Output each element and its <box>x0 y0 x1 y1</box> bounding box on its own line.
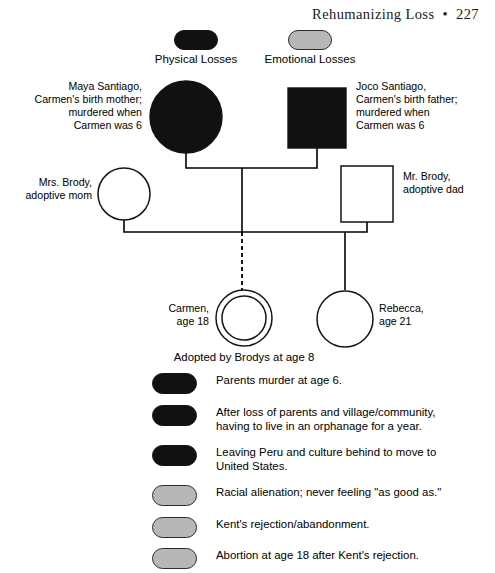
loss-text-2: After loss of parents and village/commun… <box>216 404 435 433</box>
physical-loss-pill-icon <box>174 30 218 50</box>
person-node-joco[interactable] <box>288 88 346 148</box>
page-header: Rehumanizing Loss • 227 <box>312 6 479 23</box>
key-label-physical: Physical Losses <box>141 53 251 65</box>
loss-item-1: Parents murder at age 6. <box>152 372 342 394</box>
loss-pill-icon-6 <box>152 548 197 569</box>
person-label-joco-line-4: Carmen was 6 <box>356 119 424 131</box>
emotional-loss-pill-icon <box>288 30 332 50</box>
link-adoptive-union <box>124 178 367 232</box>
person-label-carmen-line-1: Carmen, <box>168 302 209 314</box>
person-label-maya-line-1: Maya Santiago, <box>68 80 142 92</box>
person-label-carmen-line-2: age 18 <box>177 315 210 327</box>
person-node-rebecca[interactable] <box>317 291 373 347</box>
person-label-maya-line-2: Carmen's birth mother; <box>35 93 142 105</box>
person-label-mrs-brody-line-1: Mrs. Brody, <box>39 176 92 188</box>
person-label-rebecca-line-2: age 21 <box>379 315 412 327</box>
person-label-joco-line-1: Joco Santiago, <box>356 80 426 92</box>
person-node-maya[interactable] <box>150 81 222 153</box>
key-item-physical: Physical Losses <box>141 30 251 65</box>
loss-item-5: Kent's rejection/abandonment. <box>152 516 370 538</box>
loss-type-key: Physical Losses Emotional Losses <box>0 30 495 78</box>
loss-item-4: Racial alienation; never feeling "as goo… <box>152 484 441 506</box>
person-label-maya-line-4: Carmen was 6 <box>74 119 142 131</box>
person-node-carmen-inner[interactable] <box>222 296 266 340</box>
loss-text-6: Abortion at age 18 after Kent's rejectio… <box>216 547 419 563</box>
person-node-mr-brody[interactable] <box>341 166 393 222</box>
loss-item-6: Abortion at age 18 after Kent's rejectio… <box>152 547 419 569</box>
loss-text-1: Parents murder at age 6. <box>216 372 342 388</box>
person-label-mrs-brody-line-2: adoptive mom <box>25 189 92 201</box>
key-item-emotional: Emotional Losses <box>250 30 370 65</box>
person-node-mrs-brody[interactable] <box>98 168 150 220</box>
loss-pill-icon-1 <box>152 373 197 394</box>
person-label-joco-line-2: Carmen's birth father; <box>356 93 458 105</box>
loss-pill-icon-2 <box>152 405 197 426</box>
loss-text-5: Kent's rejection/abandonment. <box>216 516 370 532</box>
loss-pill-icon-5 <box>152 517 197 538</box>
person-label-rebecca-line-1: Rebecca, <box>379 302 424 314</box>
loss-pill-icon-3 <box>152 445 197 466</box>
person-label-joco-line-3: murdered when <box>356 106 430 118</box>
person-label-mr-brody-line-2: adoptive dad <box>403 183 464 195</box>
key-label-emotional: Emotional Losses <box>250 53 370 65</box>
loss-text-3: Leaving Peru and culture behind to move … <box>216 444 436 473</box>
loss-item-2: After loss of parents and village/commun… <box>152 404 435 433</box>
person-label-mr-brody-line-1: Mr. Brody, <box>403 170 451 182</box>
loss-item-3: Leaving Peru and culture behind to move … <box>152 444 436 473</box>
loss-pill-icon-4 <box>152 485 197 506</box>
link-birthparents-union <box>186 148 317 168</box>
person-label-maya-line-3: murdered when <box>68 106 142 118</box>
adoption-caption: Adopted by Brodys at age 8 <box>174 351 315 363</box>
genogram-diagram: Maya Santiago, Carmen's birth mother; mu… <box>0 76 495 368</box>
loss-text-4: Racial alienation; never feeling "as goo… <box>216 484 441 500</box>
